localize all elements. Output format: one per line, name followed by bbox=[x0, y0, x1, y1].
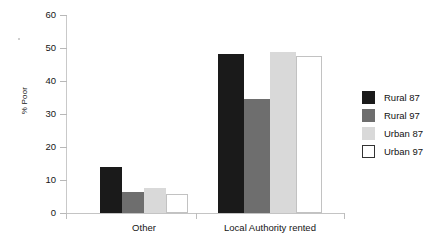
bar-other-urban-97 bbox=[166, 194, 188, 213]
y-tick-label-60: 60 bbox=[34, 10, 56, 20]
bar-local-authority-rented-rural-87 bbox=[218, 54, 244, 213]
bar-chart: % Poor 60 50 40 30 20 10 0 Other Loc bbox=[0, 0, 445, 252]
legend-label-rural-97: Rural 97 bbox=[384, 110, 420, 121]
legend-swatch-icon-urban-97 bbox=[362, 145, 375, 158]
legend-label-rural-87: Rural 87 bbox=[384, 92, 420, 103]
scan-artifact-speck bbox=[18, 38, 20, 40]
bar-local-authority-rented-urban-97 bbox=[296, 56, 322, 213]
bar-local-authority-rented-rural-97 bbox=[244, 99, 270, 213]
bar-other-urban-87 bbox=[144, 188, 166, 213]
legend-label-urban-97: Urban 97 bbox=[384, 146, 423, 157]
x-axis-label-other: Other bbox=[104, 222, 184, 233]
y-tick-label-20: 20 bbox=[34, 142, 56, 152]
legend-label-urban-87: Urban 87 bbox=[384, 128, 423, 139]
legend-item-rural-97: Rural 97 bbox=[362, 106, 423, 124]
y-tick-10 bbox=[60, 180, 67, 181]
y-tick-50 bbox=[60, 48, 67, 49]
x-axis-line bbox=[66, 213, 345, 214]
y-tick-label-50: 50 bbox=[34, 43, 56, 53]
y-tick-label-0: 0 bbox=[34, 208, 56, 218]
x-axis-label-local-authority-rented: Local Authority rented bbox=[210, 222, 330, 233]
legend-swatch-icon-rural-97 bbox=[362, 109, 375, 122]
bar-local-authority-rented-urban-87 bbox=[270, 52, 296, 213]
x-tick-mid bbox=[196, 213, 197, 219]
legend-item-urban-87: Urban 87 bbox=[362, 124, 423, 142]
bar-other-rural-97 bbox=[122, 192, 144, 213]
x-tick-left bbox=[66, 213, 67, 219]
y-tick-60 bbox=[60, 15, 67, 16]
bar-other-rural-87 bbox=[100, 167, 122, 213]
y-tick-30 bbox=[60, 114, 67, 115]
y-tick-label-10: 10 bbox=[34, 175, 56, 185]
legend-item-urban-97: Urban 97 bbox=[362, 142, 423, 160]
legend-item-rural-87: Rural 87 bbox=[362, 88, 423, 106]
legend: Rural 87 Rural 97 Urban 87 Urban 97 bbox=[362, 88, 423, 160]
y-tick-label-30: 30 bbox=[34, 109, 56, 119]
y-tick-label-40: 40 bbox=[34, 76, 56, 86]
legend-swatch-icon-urban-87 bbox=[362, 127, 375, 140]
x-tick-right bbox=[344, 213, 345, 219]
legend-swatch-icon-rural-87 bbox=[362, 91, 375, 104]
y-tick-20 bbox=[60, 147, 67, 148]
y-tick-40 bbox=[60, 81, 67, 82]
